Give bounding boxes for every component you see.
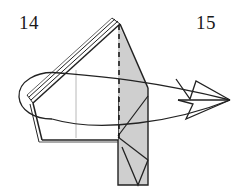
shaded-flap-upper-fill — [118, 25, 148, 96]
origami-figure: 14 15 — [0, 0, 238, 196]
step-number-left: 14 — [19, 13, 39, 32]
arrowhead-upper-barb — [176, 79, 230, 100]
open-arrowhead-pointing-right — [176, 79, 230, 119]
step-number-right: 15 — [196, 13, 216, 32]
vertical-shaded-flap — [118, 25, 148, 185]
